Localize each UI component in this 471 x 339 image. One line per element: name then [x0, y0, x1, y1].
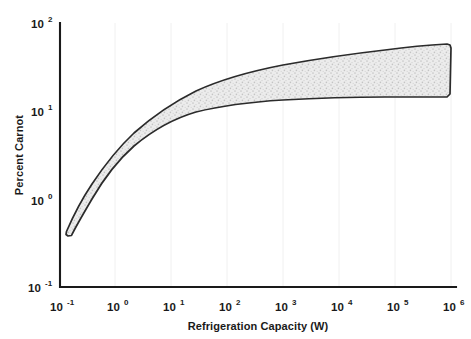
x-tick-mantissa-2: 10 [163, 301, 176, 313]
y-tick-mantissa-2: 10 [31, 195, 44, 207]
x-tick-mantissa-1: 10 [107, 301, 120, 313]
y-tick-mantissa-0: 10 [31, 18, 44, 30]
x-tick-exponent-0: -1 [67, 298, 75, 307]
y-tick-exponent-2: 0 [48, 192, 53, 201]
x-axis-title: Refrigeration Capacity (W) [188, 320, 329, 332]
y-tick-exponent-1: 1 [48, 103, 53, 112]
x-tick-exponent-7: 6 [460, 298, 465, 307]
x-tick-mantissa-7: 10 [443, 301, 456, 313]
x-tick-exponent-6: 5 [404, 298, 409, 307]
y-tick-exponent-0: 2 [48, 15, 53, 24]
x-tick-exponent-4: 3 [292, 298, 297, 307]
chart-figure: 10 2 10 1 10 0 10 -1 10 -1 10 0 10 1 10 … [0, 0, 471, 339]
x-tick-mantissa-6: 10 [387, 301, 400, 313]
x-tick-exponent-1: 0 [124, 298, 129, 307]
x-tick-mantissa-5: 10 [331, 301, 344, 313]
y-tick-exponent-3: -1 [45, 279, 53, 288]
y-axis-title: Percent Carnot [13, 115, 25, 195]
x-tick-mantissa-3: 10 [219, 301, 232, 313]
loglog-chart-svg: 10 2 10 1 10 0 10 -1 10 -1 10 0 10 1 10 … [0, 0, 471, 339]
x-tick-exponent-5: 4 [348, 298, 353, 307]
y-tick-mantissa-1: 10 [31, 106, 44, 118]
y-tick-mantissa-3: 10 [28, 282, 41, 294]
x-tick-exponent-3: 2 [236, 298, 241, 307]
x-tick-exponent-2: 1 [180, 298, 185, 307]
x-tick-mantissa-4: 10 [275, 301, 288, 313]
x-tick-mantissa-0: 10 [50, 301, 63, 313]
